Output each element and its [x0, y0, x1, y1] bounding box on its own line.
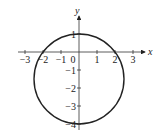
- x-axis-label: x: [147, 46, 153, 57]
- x-tick-label: −2: [38, 54, 49, 65]
- x-tick-label: −3: [20, 54, 31, 65]
- circle-graph: −3−2−10123 1−1−2−3−4 x y: [0, 0, 163, 139]
- y-tick-label: −3: [65, 101, 76, 112]
- y-axis-label: y: [74, 5, 80, 16]
- x-tick-label: 0: [71, 54, 76, 65]
- y-tick-label: −2: [65, 83, 76, 94]
- x-tick-label: 1: [95, 54, 100, 65]
- x-tick-label: 3: [131, 54, 136, 65]
- x-tick-label: −1: [56, 54, 67, 65]
- y-tick-label: −1: [65, 65, 76, 76]
